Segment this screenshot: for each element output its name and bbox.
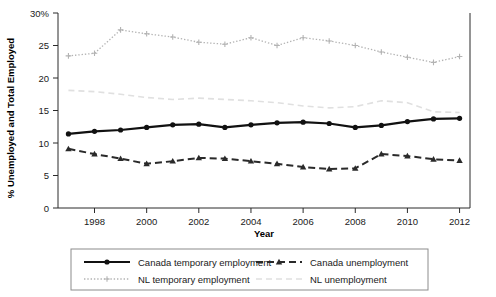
y-axis-tick-labels: 051015202530% (30, 8, 50, 214)
data-point-marker (352, 43, 358, 49)
data-point-marker (144, 31, 150, 37)
y-tick-label: 25 (38, 40, 49, 51)
data-point-marker (379, 123, 384, 128)
data-point-marker (196, 39, 202, 45)
x-axis-tick-marks (95, 208, 460, 213)
data-point-marker (327, 121, 332, 126)
y-tick-label: 30% (30, 8, 50, 19)
data-point-marker (379, 49, 385, 55)
chart-figure: % Unemployed and Total Employed 05101520… (0, 0, 496, 297)
legend-label: Canada unemployment (310, 257, 409, 268)
series-line (68, 30, 459, 63)
data-point-marker (405, 119, 410, 124)
data-point-marker (457, 54, 463, 60)
legend-label: NL temporary employment (138, 274, 250, 285)
data-point-marker (353, 125, 358, 130)
data-point-marker (274, 120, 279, 125)
x-tick-label: 2012 (449, 216, 470, 227)
x-tick-label: 2008 (345, 216, 366, 227)
data-point-marker (196, 122, 201, 127)
data-point-marker (66, 53, 72, 59)
legend-label: Canada temporary employment (138, 257, 271, 268)
data-point-marker (274, 43, 280, 49)
x-axis-title: Year (254, 228, 274, 239)
y-tick-label: 5 (44, 170, 49, 181)
data-point-marker (222, 41, 228, 47)
series-line (68, 149, 459, 169)
data-point-marker (170, 34, 176, 40)
y-tick-label: 0 (44, 203, 49, 214)
data-point-marker (66, 131, 71, 136)
x-axis-tick-labels: 19982000200220042006200820102012 (84, 216, 470, 227)
series-canada-unemployment (65, 146, 463, 172)
x-tick-label: 1998 (84, 216, 105, 227)
y-tick-label: 15 (38, 105, 49, 116)
data-point-marker (92, 129, 97, 134)
data-point-marker (431, 60, 437, 66)
y-axis-tick-marks (53, 13, 58, 208)
legend-marker (104, 259, 109, 264)
x-tick-label: 2004 (240, 216, 261, 227)
data-point-marker (222, 125, 227, 130)
line-chart: % Unemployed and Total Employed 05101520… (0, 0, 496, 297)
plot-frame (58, 13, 470, 208)
y-axis-title: % Unemployed and Total Employed (5, 38, 16, 198)
data-point-marker (248, 35, 254, 41)
series-canada-temporary-employment (66, 116, 462, 137)
series-line (68, 90, 459, 112)
series-nl-unemployment (68, 90, 459, 112)
data-point-marker (301, 120, 306, 125)
data-point-marker (300, 35, 306, 41)
series-line (68, 118, 459, 134)
legend-label: NL unemployment (310, 274, 387, 285)
y-tick-label: 20 (38, 73, 49, 84)
data-point-marker (248, 122, 253, 127)
series-nl-temporary-employment (66, 27, 463, 65)
data-point-marker (118, 127, 123, 132)
data-point-marker (405, 54, 411, 60)
data-point-marker (144, 125, 149, 130)
x-tick-label: 2002 (188, 216, 209, 227)
data-point-marker (326, 38, 332, 44)
series-layer (65, 27, 463, 171)
data-point-marker (118, 27, 124, 33)
data-point-marker (457, 116, 462, 121)
x-tick-label: 2000 (136, 216, 157, 227)
x-tick-label: 2006 (293, 216, 314, 227)
data-point-marker (170, 122, 175, 127)
y-tick-label: 10 (38, 138, 49, 149)
x-tick-label: 2010 (397, 216, 418, 227)
chart-legend: Canada temporary employmentCanada unempl… (71, 249, 428, 290)
data-point-marker (431, 116, 436, 121)
data-point-marker (92, 51, 98, 57)
data-point-marker (456, 157, 462, 163)
